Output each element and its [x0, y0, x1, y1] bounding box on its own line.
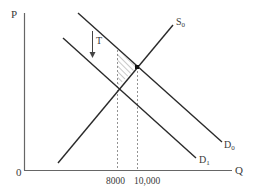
curve-subscript: 0 [231, 144, 235, 152]
demand-curve-d0 [78, 13, 222, 142]
equilibrium-point [135, 65, 139, 69]
down-arrow-icon [90, 31, 96, 58]
origin-label: 0 [16, 167, 22, 178]
curve-subscript: 0 [182, 21, 186, 29]
demand-curve-d1 [63, 38, 196, 158]
x-tick-8000: 8000 [106, 177, 125, 187]
x-axis-label: Q [235, 165, 243, 176]
demand-label-d0: D0 [224, 140, 235, 152]
tax-label: T [96, 36, 102, 46]
supply-label-s0: S0 [176, 17, 185, 29]
supply-demand-diagram [0, 0, 256, 193]
curve-subscript: 1 [206, 159, 210, 167]
demand-label-d1: D1 [199, 155, 210, 167]
x-tick-10000: 10,000 [134, 177, 160, 187]
y-axis-label: P [11, 9, 17, 20]
